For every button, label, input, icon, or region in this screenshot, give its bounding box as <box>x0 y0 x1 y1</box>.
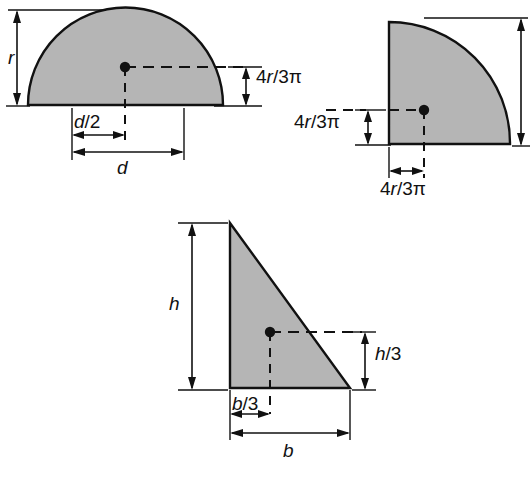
semicircle-dhalf-arrowhead-right <box>113 131 125 139</box>
semicircle-diameter-label: d <box>117 158 128 177</box>
quarter-circle-centroid-horizontal-label: 4r/3π <box>380 179 426 198</box>
triangle-centroid-dot <box>265 327 275 337</box>
semicircle-d-arrowhead-right <box>171 148 184 156</box>
quarter-circle-horiz-arrowhead-left <box>389 167 401 175</box>
semicircle-centroid-den: /3π <box>273 66 302 87</box>
quarter-circle-vert-arrowhead-bottom <box>364 133 372 145</box>
semicircle-4r-arrowhead-bottom <box>242 94 250 106</box>
semicircle-d-arrowhead-left <box>72 148 85 156</box>
semicircle-r-arrowhead-top <box>13 10 21 23</box>
triangle-bthird-var: b <box>232 393 243 414</box>
triangle-bthird-den: /3 <box>243 393 259 414</box>
quarter-circle-horiz-arrowhead-right <box>412 167 424 175</box>
semicircle-dhalf-arrowhead-left <box>72 131 84 139</box>
quarter-horiz-num: 4 <box>380 178 391 199</box>
semicircle-half-diameter-var: d <box>74 111 85 132</box>
triangle-shape <box>230 223 350 388</box>
triangle-h-arrowhead-bottom <box>188 377 196 390</box>
triangle-height-label-text: h <box>169 293 180 314</box>
quarter-circle-radius-arrowhead-bottom <box>517 133 525 146</box>
semicircle-diameter-label-text: d <box>117 157 128 178</box>
triangle-base-label: b <box>283 441 294 460</box>
triangle-hthird-den: /3 <box>386 343 402 364</box>
semicircle-4r-arrowhead-top <box>242 67 250 79</box>
semicircle-half-diameter-den: /2 <box>85 111 101 132</box>
quarter-vert-den: /3π <box>311 111 340 132</box>
triangle-centroid-base-label: b/3 <box>232 394 258 413</box>
quarter-vert-num: 4 <box>294 111 305 132</box>
semicircle-half-diameter-label: d/2 <box>74 112 100 131</box>
quarter-circle-vert-arrowhead-top <box>364 110 372 122</box>
semicircle-centroid-dot <box>120 62 130 72</box>
quarter-horiz-den: /3π <box>397 178 426 199</box>
triangle-hthird-arrowhead-top <box>361 332 369 344</box>
quarter-circle-radius-arrowhead-top <box>517 18 525 31</box>
triangle-hthird-var: h <box>375 343 386 364</box>
semicircle-radius-label: r <box>8 48 14 67</box>
semicircle-radius-label-text: r <box>8 47 14 68</box>
semicircle-r-arrowhead-bottom <box>13 93 21 106</box>
quarter-circle-shape <box>389 22 510 144</box>
triangle-bthird-arrowhead-right <box>258 410 270 418</box>
semicircle-centroid-height-label: 4r/3π <box>256 67 302 86</box>
triangle-hthird-arrowhead-bottom <box>361 378 369 390</box>
triangle-centroid-height-label: h/3 <box>375 344 401 363</box>
quarter-circle-centroid-dot <box>419 105 429 115</box>
quarter-circle-centroid-vertical-label: 4r/3π <box>294 112 340 131</box>
triangle-height-label: h <box>169 294 180 313</box>
semicircle-centroid-num: 4 <box>256 66 267 87</box>
triangle-h-arrowhead-top <box>188 223 196 236</box>
triangle-b-arrowhead-right <box>337 429 350 437</box>
triangle-base-label-text: b <box>283 440 294 461</box>
triangle-b-arrowhead-left <box>230 429 243 437</box>
